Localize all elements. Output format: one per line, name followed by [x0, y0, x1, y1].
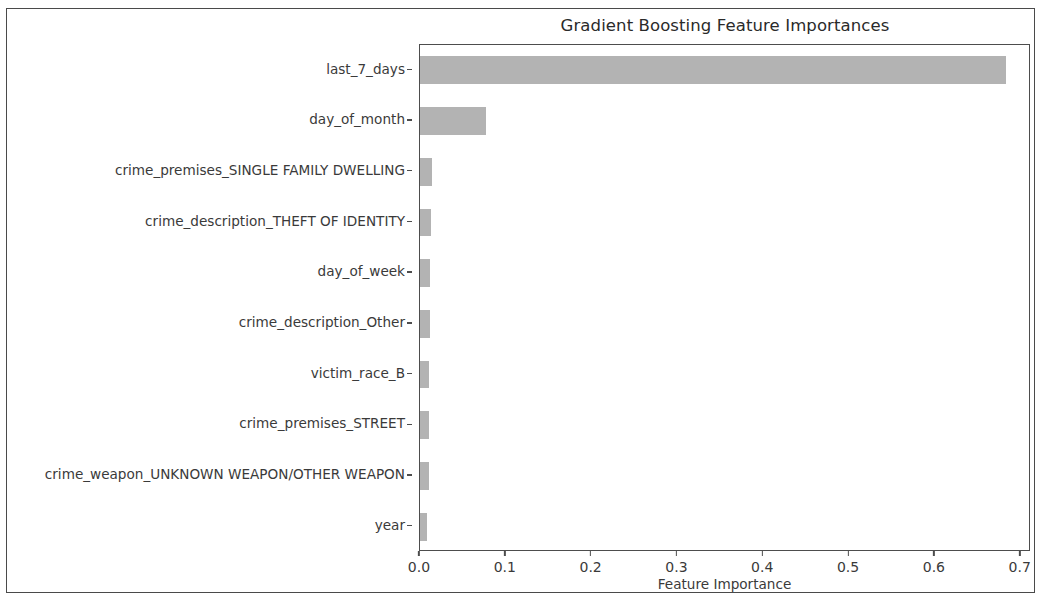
- bar: [420, 56, 1006, 84]
- x-axis-tick: 0.0: [408, 551, 430, 575]
- y-axis-tick-label: day_of_month: [309, 113, 407, 127]
- y-axis-tick-label: crime_premises_SINGLE FAMILY DWELLING: [115, 164, 407, 178]
- x-axis-tick: 0.4: [751, 551, 773, 575]
- x-axis-tick-label: 0.2: [579, 559, 601, 575]
- y-axis-tick-label: crime_weapon_UNKNOWN WEAPON/OTHER WEAPON: [45, 468, 407, 482]
- x-axis-tick-mark: [418, 551, 419, 556]
- x-axis-tick: 0.2: [579, 551, 601, 575]
- y-axis-tick-mark: [407, 322, 412, 323]
- y-axis-tick-label: crime_description_THEFT OF IDENTITY: [145, 215, 407, 229]
- bar: [420, 310, 430, 338]
- bar: [420, 158, 432, 186]
- x-axis-tick-label: 0.5: [837, 559, 859, 575]
- x-axis-tick-mark: [676, 551, 677, 556]
- x-axis-tick-mark: [847, 551, 848, 556]
- x-axis-tick-label: 0.4: [751, 559, 773, 575]
- bar: [420, 209, 431, 237]
- y-axis-tick-label: crime_description_Other: [239, 316, 407, 330]
- x-axis-tick-mark: [933, 551, 934, 556]
- x-axis-tick-mark: [590, 551, 591, 556]
- x-axis-tick-label: 0.3: [665, 559, 687, 575]
- y-axis-tick-label: year: [375, 519, 407, 533]
- x-axis-tick-mark: [1019, 551, 1020, 556]
- x-axis-tick: 0.7: [1009, 551, 1031, 575]
- x-axis-tick-label: 0.1: [494, 559, 516, 575]
- y-axis-tick-mark: [407, 221, 412, 222]
- y-axis-tick-label: victim_race_B: [311, 367, 407, 381]
- x-axis-title: Feature Importance: [419, 576, 1030, 592]
- y-axis-tick-label: last_7_days: [326, 63, 407, 77]
- bar: [420, 411, 429, 439]
- x-axis-tick: 0.1: [494, 551, 516, 575]
- x-axis-tick: 0.6: [923, 551, 945, 575]
- x-axis-tick-label: 0.0: [408, 559, 430, 575]
- x-axis-tick-label: 0.6: [923, 559, 945, 575]
- y-axis-tick-mark: [407, 525, 412, 526]
- bar: [420, 259, 430, 287]
- x-axis-tick: 0.5: [837, 551, 859, 575]
- bar: [420, 462, 429, 490]
- y-axis-tick-mark: [407, 424, 412, 425]
- y-axis-tick-mark: [407, 271, 412, 272]
- bars-layer: [420, 45, 1029, 550]
- x-axis-tick-mark: [762, 551, 763, 556]
- y-axis-tick-label: crime_premises_STREET: [239, 417, 407, 431]
- bar: [420, 361, 429, 389]
- x-axis-tick-mark: [504, 551, 505, 556]
- y-axis-tick-label: day_of_week: [318, 265, 407, 279]
- y-axis-tick-mark: [407, 373, 412, 374]
- bar: [420, 107, 486, 135]
- x-axis-tick-label: 0.7: [1009, 559, 1031, 575]
- y-axis-tick-mark: [407, 69, 412, 70]
- chart-title: Gradient Boosting Feature Importances: [419, 16, 1031, 35]
- x-axis-tick: 0.3: [665, 551, 687, 575]
- bar: [420, 513, 427, 541]
- y-axis-tick-mark: [407, 170, 412, 171]
- plot-area: [419, 44, 1030, 551]
- y-axis-tick-mark: [407, 119, 412, 120]
- y-axis-tick-mark: [407, 474, 412, 475]
- y-axis-tick-labels: last_7_daysday_of_monthcrime_premises_SI…: [0, 44, 412, 551]
